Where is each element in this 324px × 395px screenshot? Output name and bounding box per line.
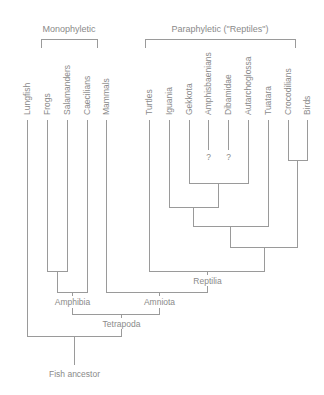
taxon-label-mammals: Mammals [101, 78, 111, 115]
clade-label-tetrapoda: Tetrapoda [103, 319, 141, 329]
clade-label-amniota: Amniota [144, 297, 175, 307]
taxon-label-frogs: Frogs [42, 93, 52, 115]
taxon-label-turtles: Turtles [144, 89, 154, 115]
clade-label-reptilia: Reptilia [193, 276, 222, 286]
tree-branches [28, 120, 308, 365]
monophyletic-bracket [42, 40, 98, 49]
taxon-label-tuatara: Tuatara [263, 86, 273, 115]
taxon-label-gekkota: Gekkota [184, 83, 194, 115]
taxon-label-birds: Birds [302, 96, 312, 115]
paraphyletic-bracket [146, 40, 296, 49]
clade-label-amphibia: Amphibia [55, 297, 91, 307]
taxon-label-lungfish: Lungfish [22, 83, 32, 115]
taxon-label-iguania: Iguania [164, 87, 174, 115]
taxon-label-caecilians: Caecilians [82, 76, 92, 115]
taxon-label-dibamidae: Dibamidae [223, 74, 233, 115]
monophyletic-label: Monophyletic [42, 24, 96, 34]
taxon-label-amphisbaenians: Amphisbaenians [203, 52, 213, 115]
taxon-labels: Lungfish Frogs Salamanders Caecilians Ma… [22, 52, 312, 115]
paraphyletic-label: Paraphyletic ("Reptiles") [172, 24, 269, 34]
cladogram: Monophyletic Paraphyletic ("Reptiles") L… [0, 0, 324, 395]
taxon-label-salamanders: Salamanders [62, 65, 72, 115]
taxon-label-autarchoglossa: Autarchoglossa [243, 56, 253, 115]
taxon-label-crocodilians: Crocodilians [283, 68, 293, 115]
uncertain-mark-dibamidae: ? [226, 152, 231, 162]
uncertain-mark-amphisbaenians: ? [206, 152, 211, 162]
root-label-fish-ancestor: Fish ancestor [49, 369, 100, 379]
